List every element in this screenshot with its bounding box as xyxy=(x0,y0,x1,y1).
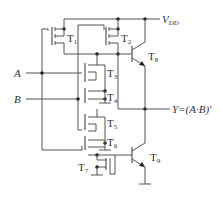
transistor-t9 xyxy=(132,109,151,184)
t3-label: T3 xyxy=(107,67,118,81)
t8-label: T8 xyxy=(148,50,159,64)
t1-label: T1 xyxy=(67,32,78,46)
vdd-rail xyxy=(64,17,160,21)
output-label: Y=(A·B)′ xyxy=(172,103,212,116)
input-b-label: B xyxy=(14,93,21,105)
t4-label: T4 xyxy=(107,91,118,105)
transistor-t7 xyxy=(91,155,115,175)
transistor-t1 xyxy=(52,19,66,54)
t6-label: T6 xyxy=(107,136,118,150)
t2-label: T2 xyxy=(121,32,132,46)
t5-label: T5 xyxy=(107,117,118,131)
transistor-t8 xyxy=(132,19,145,109)
transistor-t5 xyxy=(85,109,105,140)
transistor-t3 xyxy=(85,54,105,91)
output-line xyxy=(118,54,170,111)
input-a xyxy=(26,71,82,75)
input-b xyxy=(26,97,80,101)
vdd-label: VDD xyxy=(162,13,179,27)
transistor-t2 xyxy=(106,19,120,54)
circuit-diagram: VDD T1 T2 xyxy=(0,0,223,198)
input-a-label: A xyxy=(13,67,21,79)
t7-label: T7 xyxy=(78,161,89,175)
t9-label: T9 xyxy=(150,151,161,165)
